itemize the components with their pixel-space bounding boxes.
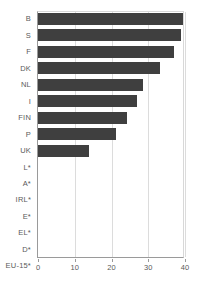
bar-row <box>38 44 184 60</box>
y-axis-tick-label: IRL* <box>0 192 34 208</box>
bar-dk <box>38 62 160 74</box>
bar-row <box>38 159 184 175</box>
y-axis-tick-label-text: IRL* <box>16 196 31 204</box>
bar-nl <box>38 79 143 91</box>
bar-row <box>38 11 184 27</box>
bar-row <box>38 225 184 241</box>
bar-uk <box>38 145 89 157</box>
bar-row <box>38 110 184 126</box>
y-axis-tick-label: NL <box>0 77 34 93</box>
y-axis-tick-label: DK <box>0 60 34 76</box>
x-axis-tick-mark <box>75 259 76 262</box>
bar-row <box>38 77 184 93</box>
y-axis-tick-label: A* <box>0 176 34 192</box>
y-axis-tick-label: FIN <box>0 110 34 126</box>
y-axis-tick-label: UK <box>0 143 34 159</box>
y-axis-tick-label-text: DK <box>20 65 31 73</box>
y-axis-tick-label-text: EU-15* <box>6 262 31 270</box>
y-axis-tick-label: S <box>0 27 34 43</box>
x-axis-tick-label: 40 <box>181 264 189 272</box>
bar-fin <box>38 112 127 124</box>
y-axis-tick-label-text: FIN <box>18 114 31 122</box>
x-axis-tick-mark <box>148 259 149 262</box>
y-axis-tick-label-text: E* <box>23 213 31 221</box>
bar-row <box>38 208 184 224</box>
y-axis-tick-label-text: NL <box>21 81 31 89</box>
y-axis-tick-label-text: L* <box>24 164 32 172</box>
x-axis-tick-label: 20 <box>107 264 115 272</box>
y-axis-tick-label: EL* <box>0 225 34 241</box>
bar-row <box>38 126 184 142</box>
y-axis-tick-label-text: B <box>26 15 31 23</box>
bar-b <box>38 13 183 25</box>
x-axis-tick-label: 10 <box>71 264 79 272</box>
x-axis-tick-mark <box>185 259 186 262</box>
bar-p <box>38 128 116 140</box>
y-axis-tick-label: E* <box>0 208 34 224</box>
bar-s <box>38 29 181 41</box>
bar-row <box>38 93 184 109</box>
y-axis-tick-label-text: P <box>26 131 31 139</box>
x-axis-tick-label: 0 <box>36 264 40 272</box>
bars-container <box>38 11 184 258</box>
x-axis-tick-mark <box>112 259 113 262</box>
bar-row <box>38 176 184 192</box>
bar-row <box>38 192 184 208</box>
bar-i <box>38 95 137 107</box>
y-axis-tick-label-text: EL* <box>18 229 31 237</box>
y-axis-tick-label: I <box>0 93 34 109</box>
x-axis: 010203040 <box>37 259 185 281</box>
y-axis-tick-label: B <box>0 11 34 27</box>
bar-row <box>38 143 184 159</box>
y-axis-tick-label-text: D* <box>22 246 31 254</box>
y-axis-tick-label-text: I <box>29 98 31 106</box>
bar-row <box>38 60 184 76</box>
y-axis-tick-label-text: F <box>26 48 31 56</box>
bar-f <box>38 46 174 58</box>
y-axis-tick-label: D* <box>0 241 34 257</box>
y-axis-tick-label-text: S <box>26 32 31 40</box>
x-axis-tick-mark <box>38 259 39 262</box>
y-axis-category-labels: BSFDKNLIFINPUKL*A*IRL*E*EL*D*EU-15* <box>0 11 34 258</box>
bar-chart: BSFDKNLIFINPUKL*A*IRL*E*EL*D*EU-15* 0102… <box>0 0 200 291</box>
y-axis-tick-label: F <box>0 44 34 60</box>
gridline-x-40 <box>185 12 186 257</box>
y-axis-tick-label: L* <box>0 159 34 175</box>
y-axis-tick-label-text: A* <box>23 180 31 188</box>
y-axis-tick-label: P <box>0 126 34 142</box>
y-axis-tick-label-text: UK <box>20 147 31 155</box>
bar-row <box>38 27 184 43</box>
y-axis-tick-label: EU-15* <box>0 258 34 274</box>
x-axis-tick-label: 30 <box>144 264 152 272</box>
bar-row <box>38 241 184 257</box>
